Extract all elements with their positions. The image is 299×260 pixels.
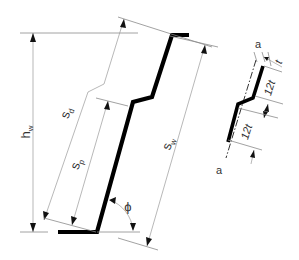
detail-label-12t-lower: 12t [238, 122, 254, 141]
detail-gap-arrow-top [264, 104, 269, 112]
sw-arrow-bottom [146, 237, 152, 246]
detail-t-ext [268, 52, 271, 66]
sw-extension-top [170, 36, 218, 47]
detail-lower-arrow [250, 150, 255, 158]
svg-text:hw: hw [18, 125, 35, 138]
svg-text:t: t [272, 58, 285, 66]
hw-label: hw [18, 125, 35, 138]
detail-ext-bottom [228, 140, 262, 150]
sw-extension-bottom [118, 238, 158, 250]
svg-text:sw: sw [159, 135, 179, 152]
phi-label: ϕ [124, 199, 131, 214]
detail-ext-lower [238, 108, 278, 118]
detail-label-a-top: a [255, 38, 262, 50]
sp-arrow-top [104, 101, 110, 110]
sp-label: sp [67, 156, 87, 172]
sw-arrow-top [201, 45, 207, 54]
svg-text:sd: sd [57, 105, 77, 121]
hw-arrow-bottom [30, 223, 36, 232]
hw-arrow-top [30, 33, 36, 42]
svg-text:12t: 12t [261, 78, 277, 97]
sp-arrow-bottom [71, 216, 77, 225]
svg-text:12t: 12t [238, 122, 254, 141]
sp-extension-top [96, 98, 128, 106]
sd-dimension-line [44, 19, 124, 220]
detail-ext-mid [255, 96, 283, 104]
sd-arrow-top [120, 19, 126, 28]
svg-text:sp: sp [67, 156, 87, 172]
detail-label-12t-upper: 12t [261, 78, 277, 97]
sd-label: sd [57, 105, 77, 121]
phi-arrow-start [109, 197, 116, 204]
detail-ext-top [264, 66, 282, 72]
detail-label-t: t [272, 58, 285, 66]
phi-arrow-end [130, 223, 136, 231]
sw-label: sw [159, 135, 179, 152]
detail-label-a-bottom: a [216, 164, 223, 176]
profile-diagram: hw sd sp sw ϕ a t 12t [0, 0, 299, 260]
